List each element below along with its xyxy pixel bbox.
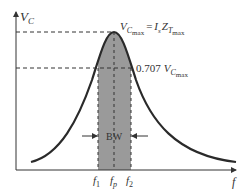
resonance-curve	[31, 32, 236, 162]
half-power-label: 0.707VCmax	[136, 62, 188, 79]
bandwidth-shaded-region	[31, 32, 236, 170]
fp-label: fp	[110, 174, 117, 189]
bandwidth-label: BW	[106, 131, 123, 142]
f1-label: f1	[93, 174, 100, 189]
x-axis-label: f	[232, 175, 237, 189]
peak-label: VCmax=IsZTmax	[120, 20, 185, 37]
y-axis-label: VC	[20, 9, 35, 26]
f2-label: f2	[126, 174, 133, 189]
resonance-diagram: VC f VCmax=IsZTmax 0.707VCmax BW f1 fp f…	[0, 0, 248, 193]
